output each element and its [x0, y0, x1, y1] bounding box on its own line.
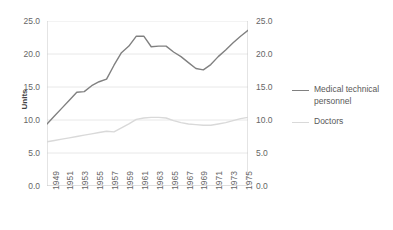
y-tick-label-right: 10.0 — [256, 115, 273, 125]
y-tick-label-right: 20.0 — [256, 49, 273, 59]
x-tick-label: 1959 — [125, 171, 135, 190]
chart-legend: Medical technical personnel Doctors — [292, 84, 393, 137]
x-tick-label: 1961 — [140, 171, 150, 190]
x-tick-label: 1949 — [51, 171, 61, 190]
x-tick-label: 1957 — [110, 171, 120, 190]
y-tick-label-left: 20.0 — [14, 49, 40, 59]
series-line — [47, 30, 248, 124]
legend-label: Medical technical personnel — [314, 84, 392, 107]
x-tick-label: 1965 — [170, 171, 180, 190]
y-tick-label-left: 0.0 — [14, 181, 40, 191]
y-tick-label-right: 15.0 — [256, 82, 273, 92]
x-tick-label: 1971 — [214, 171, 224, 190]
x-axis-labels: 1949195119531955195719591961196319651967… — [47, 188, 248, 230]
x-tick-label: 1973 — [229, 171, 239, 190]
y-tick-label-left: 25.0 — [14, 16, 40, 26]
x-tick-label: 1967 — [185, 171, 195, 190]
x-tick-label: 1963 — [155, 171, 165, 190]
legend-swatch-icon — [292, 90, 309, 91]
plot-svg — [47, 21, 248, 186]
y-tick-label-right: 25.0 — [256, 16, 273, 26]
x-tick-label: 1955 — [95, 171, 105, 190]
legend-item-medical-technical-personnel: Medical technical personnel — [292, 84, 393, 107]
y-tick-label-left: 5.0 — [14, 148, 40, 158]
y-tick-label-left: 15.0 — [14, 82, 40, 92]
y-tick-label-left: 10.0 — [14, 115, 40, 125]
x-tick-label: 1969 — [199, 171, 209, 190]
series-line — [47, 117, 248, 141]
plot-area — [47, 21, 248, 186]
line-chart: Units 0.05.010.015.020.025.0 0.05.010.01… — [0, 0, 393, 230]
x-tick-label: 1975 — [244, 171, 254, 190]
legend-item-doctors: Doctors — [292, 116, 393, 128]
x-tick-label: 1953 — [80, 171, 90, 190]
legend-label: Doctors — [314, 116, 392, 128]
y-tick-label-right: 5.0 — [256, 148, 268, 158]
legend-swatch-icon — [292, 122, 309, 123]
x-tick-label: 1951 — [65, 171, 75, 190]
y-tick-label-right: 0.0 — [256, 181, 268, 191]
